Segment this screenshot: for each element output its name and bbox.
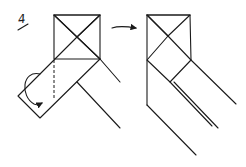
panel-before-fold <box>18 15 120 128</box>
right-arrow-icon <box>112 27 136 29</box>
hatched-diamond <box>147 36 191 82</box>
hatched-strip <box>18 37 100 118</box>
top-hatched-triangle <box>147 15 190 36</box>
panel-after-fold <box>147 15 236 155</box>
folding-diagram <box>0 0 246 167</box>
step-tick-icon <box>18 24 28 30</box>
top-hatched-triangle <box>54 15 100 37</box>
curved-fold-arrow-icon <box>25 74 42 105</box>
